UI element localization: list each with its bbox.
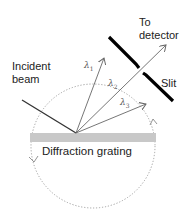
- lambda3-subscript: 3: [126, 102, 130, 109]
- incident-beam-label-line2: beam: [12, 73, 51, 86]
- rotation-arrow-left-icon: [29, 156, 38, 162]
- to-detector-label-line2: detector: [139, 29, 179, 42]
- diffraction-grating: [30, 133, 156, 142]
- lambda3-label: λ3: [120, 97, 130, 109]
- grating-label: Diffraction grating: [42, 145, 132, 158]
- to-detector-label: To detector: [139, 16, 179, 42]
- lambda1-subscript: 1: [90, 65, 94, 72]
- lambda2-label: λ2: [108, 78, 118, 90]
- lambda1-label: λ1: [84, 60, 94, 72]
- incident-beam-label: Incident beam: [12, 60, 51, 86]
- incident-beam-line: [22, 100, 76, 133]
- incident-beam-label-line1: Incident: [12, 60, 51, 73]
- slit-upper-jaw: [109, 37, 139, 68]
- lambda2-subscript: 2: [114, 83, 118, 90]
- to-detector-label-line1: To: [139, 16, 179, 29]
- lambda3-ray: [76, 104, 146, 133]
- slit-label: Slit: [161, 77, 176, 90]
